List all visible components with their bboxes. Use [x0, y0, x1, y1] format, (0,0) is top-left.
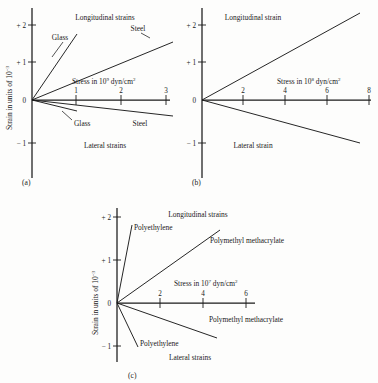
panel-a-xtick-1: 1 — [74, 87, 78, 95]
panel-b-x-axis-label: Stress in 108 dyn/cm2 — [277, 77, 341, 86]
panel-a-label-steel-top: Steel — [131, 24, 146, 33]
panel-b-ytick-m1: − 1 — [187, 140, 197, 148]
panel-a-svg: + 2 + 1 0 − 1 1 2 3 Stress in 109 dyn/cm… — [0, 0, 190, 195]
panel-a-stress-strain-chart: + 2 + 1 0 − 1 1 2 3 Stress in 109 dyn/cm… — [0, 0, 190, 195]
panel-a-ytick-1: + 1 — [17, 59, 27, 67]
panel-a-xtick-2: 2 — [119, 87, 123, 95]
panel-b-xtick-2: 2 — [241, 87, 245, 95]
panel-a-ytick-0: 0 — [22, 97, 26, 105]
panel-a-ytick-2: + 2 — [17, 22, 27, 30]
panel-b-ytick-1: + 1 — [187, 59, 197, 67]
panel-c-ytick-1: + 1 — [102, 257, 112, 265]
panel-a-caption: (a) — [22, 178, 31, 187]
panel-c-caption: (c) — [128, 371, 137, 380]
panel-b-ytick-2: + 2 — [187, 22, 197, 30]
panel-c-xtick-6: 6 — [244, 290, 248, 298]
panel-c-curve-polyethylene-longitudinal — [117, 225, 132, 303]
panel-b-ytick-0: 0 — [192, 97, 196, 105]
panel-c-label-polyethylene-top: Polyethylene — [134, 223, 173, 232]
panel-a-label-steel-bottom: Steel — [133, 119, 148, 128]
panel-c-svg: + 2 + 1 0 − 1 2 4 6 Stress in 107 dyn/cm… — [70, 190, 378, 383]
panel-a-leader-steel-top — [141, 33, 150, 38]
panel-b-top-region-label: Longitudinal strain — [225, 13, 282, 22]
panel-b-xtick-8: 8 — [367, 87, 371, 95]
panel-a-label-glass-top: Glass — [52, 33, 69, 42]
panel-a-ytick-m1: − 1 — [17, 140, 27, 148]
panel-c-ytick-m1: − 1 — [102, 343, 112, 351]
panel-c-ytick-0: 0 — [107, 300, 111, 308]
panel-b-caption: (b) — [192, 178, 201, 187]
panel-a-leader-glass-top — [52, 42, 63, 57]
panel-c-top-region-label: Longitudinal strains — [168, 210, 227, 219]
panel-a-curve-steel-longitudinal — [32, 42, 173, 100]
panel-a-x-axis-label: Stress in 109 dyn/cm2 — [72, 77, 136, 86]
panel-a-top-region-label: Longitudinal strains — [75, 13, 134, 22]
panel-a-curve-steel-lateral — [32, 100, 173, 116]
panel-a-y-axis-label: Strain in units of 10−3 — [5, 65, 14, 130]
panel-b-svg: + 2 + 1 0 − 1 2 4 6 8 Stress in 108 dyn/… — [185, 0, 378, 195]
panel-c-stress-strain-chart: + 2 + 1 0 − 1 2 4 6 Stress in 107 dyn/cm… — [70, 190, 378, 383]
panel-c-bottom-region-label: Lateral strains — [169, 353, 211, 362]
panel-c-x-axis-label: Stress in 107 dyn/cm2 — [174, 279, 238, 288]
panel-a-xtick-3: 3 — [164, 87, 168, 95]
panel-c-label-polyethylene-bottom: Polyethylene — [140, 339, 179, 348]
panel-c-ytick-2: + 2 — [102, 214, 112, 222]
panel-a-bottom-region-label: Lateral strains — [84, 141, 126, 150]
panel-b-xtick-4: 4 — [283, 87, 287, 95]
panel-b-bottom-region-label: Lateral strain — [233, 141, 272, 150]
panel-c-xtick-2: 2 — [158, 290, 162, 298]
panel-a-leader-glass-bottom — [62, 111, 72, 120]
panel-c-y-axis-label: Strain in units of 10−3 — [91, 270, 100, 335]
panel-b-curve-longitudinal — [202, 13, 360, 100]
panel-a-label-glass-bottom: Glass — [74, 119, 91, 128]
panel-c-xtick-4: 4 — [201, 290, 205, 298]
panel-c-curve-pmma-lateral — [117, 303, 217, 338]
panel-c-label-pmma-top: Polymethyl methacrylate — [210, 236, 285, 245]
panel-a-curve-glass-lateral — [32, 100, 77, 111]
panel-b-xtick-6: 6 — [325, 87, 329, 95]
panel-a-curve-glass-longitudinal — [32, 34, 77, 100]
panel-b-curve-lateral — [202, 100, 360, 143]
panel-c-label-pmma-bottom: Polymethyl methacrylate — [209, 315, 284, 324]
panel-b-stress-strain-chart: + 2 + 1 0 − 1 2 4 6 8 Stress in 108 dyn/… — [185, 0, 378, 195]
